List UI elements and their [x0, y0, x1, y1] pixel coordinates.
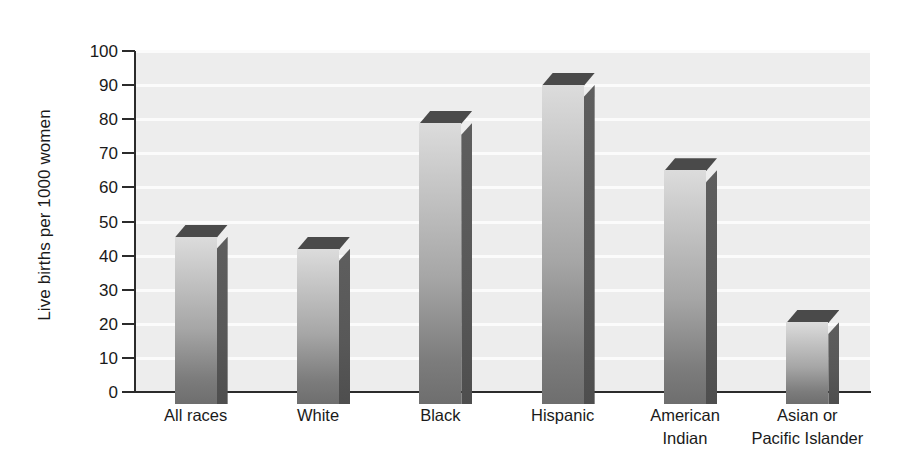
y-tick-mark [122, 357, 135, 359]
y-tick-label: 50 [46, 213, 118, 230]
bar [542, 85, 595, 392]
bar-side-face [584, 85, 595, 404]
x-label-asian-or-pacific-islander: Asian or Pacific Islander [746, 404, 868, 450]
y-tick-mark [122, 50, 135, 52]
gridline [136, 118, 870, 121]
gridline [136, 50, 870, 53]
bar-front-face [419, 123, 461, 404]
y-tick-label: 0 [46, 384, 118, 401]
bar-front-face [786, 322, 828, 404]
bar [175, 237, 228, 392]
x-label-hispanic: Hispanic [502, 404, 624, 427]
x-label-white: White [257, 404, 379, 427]
y-tick-label: 90 [46, 77, 118, 94]
y-tick-label: 70 [46, 145, 118, 162]
y-tick-label: 20 [46, 315, 118, 332]
y-tick-label: 60 [46, 179, 118, 196]
gridline [136, 255, 870, 258]
y-tick-mark [122, 323, 135, 325]
bar-front-face [297, 249, 339, 404]
y-tick-mark [122, 221, 135, 223]
gridline [136, 84, 870, 87]
y-tick-mark [122, 186, 135, 188]
bar [786, 322, 839, 392]
y-tick-mark [122, 118, 135, 120]
y-tick-label: 40 [46, 247, 118, 264]
bar-side-face [339, 249, 350, 404]
y-tick-mark [122, 152, 135, 154]
bar-front-face [664, 170, 706, 404]
x-label-american-indian: American Indian [624, 404, 746, 450]
gridline [136, 323, 870, 326]
gridline [136, 357, 870, 360]
bar-chart-figure: Live births per 1000 women 100 90 80 70 … [0, 0, 911, 469]
bar-side-face [217, 237, 228, 404]
gridline [136, 152, 870, 155]
bar-side-face [828, 322, 839, 404]
y-tick-label: 30 [46, 281, 118, 298]
gridline [136, 221, 870, 224]
y-tick-label: 80 [46, 111, 118, 128]
y-tick-mark [122, 391, 135, 393]
bar-front-face [542, 85, 584, 404]
x-axis-line [134, 391, 871, 393]
gridline [136, 186, 870, 189]
y-axis-tick-labels: 100 90 80 70 60 50 40 30 20 10 0 [46, 51, 118, 392]
y-tick-label: 10 [46, 349, 118, 366]
bar-side-face [461, 123, 472, 404]
y-tick-mark [122, 84, 135, 86]
x-axis-category-labels: All races White Black Hispanic American … [136, 404, 870, 466]
y-tick-mark [122, 289, 135, 291]
y-tick-mark [122, 255, 135, 257]
bar-side-face [706, 170, 717, 404]
bar [664, 170, 717, 392]
bar [419, 123, 472, 392]
gridline [136, 289, 870, 292]
plot-area [136, 51, 870, 392]
bar [297, 249, 350, 392]
bar-front-face [175, 237, 217, 404]
x-label-black: Black [379, 404, 501, 427]
y-tick-label: 100 [46, 43, 118, 60]
x-label-all-races: All races [135, 404, 257, 427]
